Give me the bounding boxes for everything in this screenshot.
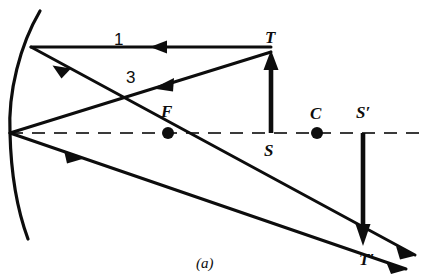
incident-ray-3-arrowhead bbox=[153, 78, 174, 92]
figure-caption: (a) bbox=[196, 256, 214, 271]
label-ray-3: 3 bbox=[126, 69, 135, 86]
label-ray-1: 1 bbox=[114, 31, 123, 48]
image-arrow-head bbox=[356, 224, 371, 246]
ray-diagram-figure: 1 3 T F C S′ S T′ (a) bbox=[0, 0, 424, 278]
label-point-c: C bbox=[310, 105, 321, 122]
label-point-s: S bbox=[264, 142, 273, 159]
focal-point-marker bbox=[162, 127, 174, 139]
incident-ray-1-arrowhead bbox=[150, 41, 167, 54]
label-point-f: F bbox=[161, 103, 172, 120]
label-point-t: T bbox=[265, 29, 275, 46]
incident-ray-3-line bbox=[10, 52, 271, 133]
label-point-t-prime: T′ bbox=[359, 251, 374, 268]
reflected-ray-1-line bbox=[31, 47, 415, 255]
center-of-curvature-marker bbox=[311, 127, 323, 139]
label-point-s-prime: S′ bbox=[356, 104, 370, 121]
ray-diagram-canvas bbox=[0, 0, 424, 278]
